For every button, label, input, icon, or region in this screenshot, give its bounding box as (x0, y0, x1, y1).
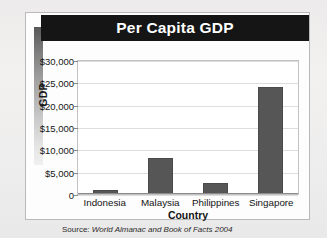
x-axis-tick-label: Indonesia (77, 197, 133, 208)
bar-slot (78, 61, 133, 194)
y-axis-tick-label: $25,000 (40, 78, 74, 89)
x-axis-tick-label: Philippines (188, 197, 244, 208)
chart-title-banner: Per Capita GDP (41, 15, 309, 41)
bar-slot (188, 61, 243, 194)
page-background: Per Capita GDP GDP $30,000$25,000$20,000… (0, 0, 327, 238)
page-title: Per Capita GDP (116, 20, 233, 36)
y-axis-tick-label: $30,000 (40, 56, 74, 67)
x-axis-title: Country (77, 209, 299, 221)
bar-singapore[interactable] (258, 87, 283, 194)
gridline (78, 195, 298, 196)
source-label: Source: (62, 225, 90, 234)
bars-group (78, 61, 298, 194)
source-note: Source: World Almanac and Book of Facts … (62, 225, 232, 234)
y-axis-tick-label: $20,000 (40, 100, 74, 111)
bar-malaysia[interactable] (148, 158, 173, 194)
bar-slot (243, 61, 298, 194)
plot-area: $30,000$25,000$20,000$15,000$10,000$5,00… (77, 60, 299, 195)
y-axis-tick-label: $10,000 (40, 145, 74, 156)
source-text: World Almanac and Book of Facts 2004 (92, 225, 233, 234)
x-axis-tick-labels: IndonesiaMalaysiaPhilippinesSingapore (77, 197, 299, 208)
chart-card: Per Capita GDP GDP $30,000$25,000$20,000… (25, 12, 310, 220)
x-axis-tick-label: Malaysia (133, 197, 189, 208)
bar-chart: GDP $30,000$25,000$20,000$15,000$10,000$… (26, 41, 311, 221)
y-axis-tick-mark (74, 195, 78, 196)
y-axis-tick-label: $15,000 (40, 123, 74, 134)
y-axis-tick-label: $5,000 (45, 167, 74, 178)
x-axis-tick-label: Singapore (244, 197, 300, 208)
x-axis-baseline (78, 193, 298, 194)
bar-slot (133, 61, 188, 194)
